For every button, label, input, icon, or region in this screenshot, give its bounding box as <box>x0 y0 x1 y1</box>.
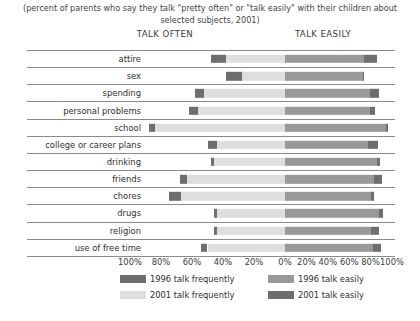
chart-row: religion <box>27 223 395 240</box>
bar-right-2001 <box>386 124 388 132</box>
bar-left-2001 <box>204 89 285 97</box>
bar-right-2001 <box>368 141 378 149</box>
legend-swatch <box>268 275 294 284</box>
axis-tick: 100% <box>118 257 142 267</box>
bar-left-2001 <box>198 106 285 114</box>
chart-row: use of free time <box>27 240 395 257</box>
bar-left-2001 <box>187 175 285 183</box>
legend-label: 1996 talk frequently <box>150 274 234 284</box>
chart-container: (percent of parents who say they talk "p… <box>0 0 420 321</box>
axis-tick: 100% <box>380 257 404 267</box>
axis-tick: 60% <box>340 257 359 267</box>
row-bars <box>130 244 392 252</box>
bar-right-2001 <box>377 158 380 166</box>
row-bars <box>130 209 392 217</box>
chart-row: spending <box>27 85 395 102</box>
chart-row: sex <box>27 68 395 85</box>
axis-tick: 20% <box>245 257 264 267</box>
legend-label: 2001 talk frequently <box>150 290 234 300</box>
bar-right-1996 <box>285 158 377 166</box>
bar-left-1996 <box>226 72 242 80</box>
bar-right-1996 <box>285 209 379 217</box>
bar-right-2001 <box>364 55 377 63</box>
x-axis: 100%80%60%40%20%0%20%40%60%80%100% <box>27 257 395 270</box>
bar-right-2001 <box>363 72 364 80</box>
bar-left-1996 <box>211 55 227 63</box>
row-bars <box>130 106 392 114</box>
legend-item: 1996 talk frequently <box>120 274 234 284</box>
bar-left-2001 <box>226 55 285 63</box>
bar-right-1996 <box>285 89 370 97</box>
chart-row: personal problems <box>27 102 395 119</box>
chart-legend: 1996 talk frequently2001 talk frequently… <box>120 274 410 308</box>
row-bars <box>130 175 392 183</box>
legend-swatch <box>268 291 294 300</box>
bar-right-1996 <box>285 192 371 200</box>
row-bars <box>130 89 392 97</box>
bar-left-1996 <box>180 175 188 183</box>
bar-right-1996 <box>285 226 371 234</box>
row-bars <box>130 55 392 63</box>
row-bars <box>130 124 392 132</box>
chart-row: attire <box>27 51 395 68</box>
bar-left-1996 <box>169 192 181 200</box>
chart-subtitle: (percent of parents who say they talk "p… <box>8 3 412 26</box>
bar-left-2001 <box>242 72 285 80</box>
bar-left-1996 <box>189 106 198 114</box>
bar-right-2001 <box>371 226 380 234</box>
bar-right-1996 <box>285 55 364 63</box>
chart-row: school <box>27 120 395 137</box>
bar-left-2001 <box>208 244 286 252</box>
panel-header-talk-often: TALK OFTEN <box>110 29 220 39</box>
bar-left-2001 <box>155 124 285 132</box>
legend-item: 2001 talk easily <box>268 290 364 300</box>
bar-right-1996 <box>285 141 368 149</box>
chart-row: friends <box>27 171 395 188</box>
bar-right-2001 <box>370 89 380 97</box>
bar-left-2001 <box>217 209 285 217</box>
legend-label: 1996 talk easily <box>298 274 364 284</box>
axis-tick: 20% <box>297 257 316 267</box>
bar-left-2001 <box>217 226 285 234</box>
legend-swatch <box>120 275 146 284</box>
bar-right-1996 <box>285 124 386 132</box>
axis-tick: 40% <box>318 257 337 267</box>
chart-row: drinking <box>27 154 395 171</box>
row-bars <box>130 72 392 80</box>
bar-right-1996 <box>285 106 370 114</box>
bar-left-2001 <box>214 158 285 166</box>
bar-left-1996 <box>195 89 204 97</box>
bar-right-2001 <box>379 209 383 217</box>
bar-right-2001 <box>370 106 375 114</box>
chart-row: chores <box>27 188 395 205</box>
bar-right-1996 <box>285 175 374 183</box>
axis-tick: 80% <box>361 257 380 267</box>
legend-swatch <box>120 291 146 300</box>
row-label: college or career plans <box>45 140 141 150</box>
row-bars <box>130 226 392 234</box>
bar-right-2001 <box>373 244 382 252</box>
bar-right-1996 <box>285 72 363 80</box>
axis-tick: 80% <box>152 257 171 267</box>
bar-right-1996 <box>285 244 373 252</box>
axis-tick: 40% <box>214 257 233 267</box>
legend-item: 1996 talk easily <box>268 274 364 284</box>
bar-left-1996 <box>208 141 217 149</box>
chart-row: drugs <box>27 205 395 222</box>
legend-label: 2001 talk easily <box>298 290 364 300</box>
row-bars <box>130 192 392 200</box>
chart-row: college or career plans <box>27 137 395 154</box>
axis-tick: 60% <box>183 257 202 267</box>
bar-right-2001 <box>374 175 383 183</box>
axis-tick: 0% <box>278 257 291 267</box>
row-bars <box>130 141 392 149</box>
plot-area: attiresexspendingpersonal problemsschool… <box>27 50 395 257</box>
bar-left-2001 <box>217 141 285 149</box>
panel-header-talk-easily: TALK EASILY <box>268 29 378 39</box>
legend-item: 2001 talk frequently <box>120 290 234 300</box>
bar-left-2001 <box>181 192 285 200</box>
bar-right-2001 <box>371 192 374 200</box>
row-bars <box>130 158 392 166</box>
